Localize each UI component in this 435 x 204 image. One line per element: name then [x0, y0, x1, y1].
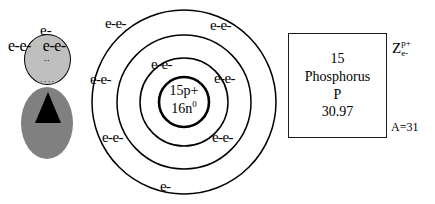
z-electron-label: e- [401, 49, 408, 58]
shell-label-lower-right: e-e- [212, 130, 233, 145]
person-head-mid-dots: .. [44, 53, 50, 63]
person-head-lower-dots: .... [37, 75, 59, 84]
shell-label-lower-left: e-e- [102, 130, 123, 145]
z-symbol: Z [392, 40, 401, 56]
bohr-atom-model: e-e- e-e- e-e- e-e- e-e- e-e- e-e- e- 15… [88, 2, 280, 202]
nucleus-neutrons-base: 16n [171, 101, 192, 116]
element-name: Phosphorus [305, 68, 370, 86]
nucleus-composition: 15p+ 16n0 [148, 82, 220, 117]
person-figure: e- e-e-e-e- .. .... [8, 14, 90, 154]
shell-label-outer-left: e-e- [90, 72, 111, 87]
mass-number-annotation: A=31 [391, 121, 418, 133]
shell-label-outer-top-left: e-e- [105, 16, 126, 31]
z-proton-charge: + [406, 38, 411, 48]
z-annotation: Zp+e- [392, 40, 417, 60]
z-electron-charge: - [405, 48, 408, 58]
element-atomic-mass: 30.97 [322, 103, 354, 121]
shell-label-inner-top: e-e- [151, 57, 172, 72]
nucleus-protons: 15p+ [148, 82, 220, 100]
nucleus-neutrons: 16n0 [148, 100, 220, 118]
person-collar-triangle [35, 92, 61, 123]
diagram-canvas: e- e-e-e-e- .. .... e-e- e-e- e-e- e-e- … [0, 0, 435, 204]
z-proton-label: p+ [401, 39, 411, 48]
shell-label-outer-top-right: e-e- [210, 18, 231, 33]
z-annotation-stack: p+e- [401, 40, 417, 60]
person-electron-label-top: e- [40, 23, 52, 38]
person-electron-label-row: e-e-e-e- [8, 38, 66, 54]
nucleus-neutrons-charge: 0 [192, 99, 197, 109]
element-info-box: 15 Phosphorus P 30.97 [288, 33, 387, 138]
element-atomic-number: 15 [331, 50, 345, 68]
element-symbol: P [334, 86, 342, 104]
shell-label-bottom: e- [160, 179, 170, 194]
person-electron-label-left: e-e- [8, 37, 31, 54]
